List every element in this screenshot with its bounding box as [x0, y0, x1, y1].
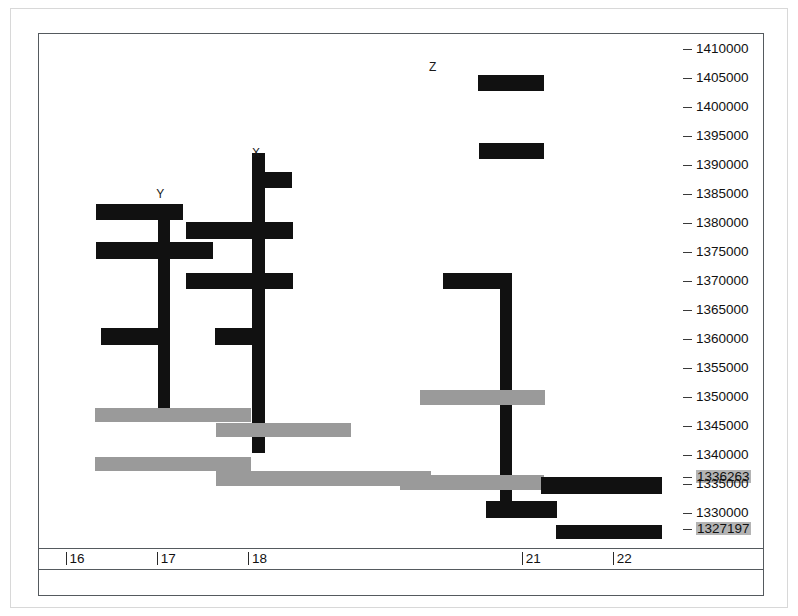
y-axis-label-highlighted: 1327197: [696, 522, 751, 535]
y-axis-label: 1365000: [696, 303, 749, 316]
y-axis-label: 1395000: [696, 129, 749, 142]
x-axis-tick: [522, 552, 523, 565]
plot-area: ZXY: [39, 34, 683, 539]
y-axis-tick: [683, 455, 692, 456]
feature-bar: [216, 423, 351, 438]
track-label-y: Y: [156, 188, 164, 200]
y-axis-tick: [683, 136, 692, 137]
y-axis-label: 1340000: [696, 448, 749, 461]
x-axis-tick: [248, 552, 249, 565]
x-axis-label: 18: [252, 552, 267, 566]
y-axis-tick: [683, 477, 692, 478]
y-axis-tick: [683, 484, 692, 485]
track-label-x: X: [252, 147, 260, 159]
y-axis-label: 1330000: [696, 506, 749, 519]
feature-bar: [259, 172, 292, 188]
y-axis-tick: [683, 107, 692, 108]
y-axis-tick: [683, 194, 692, 195]
y-axis-label: 1375000: [696, 245, 749, 258]
y-axis-tick: [683, 252, 692, 253]
x-axis-label: 17: [161, 552, 176, 566]
y-axis-tick: [683, 368, 692, 369]
feature-bar: [186, 273, 294, 290]
track-label-z: Z: [429, 61, 436, 73]
feature-bar: [486, 501, 557, 518]
y-axis-label: 1370000: [696, 274, 749, 287]
feature-bar: [252, 153, 265, 453]
x-axis-tick: [613, 552, 614, 565]
feature-bar: [400, 475, 544, 490]
feature-bar: [479, 143, 545, 159]
x-axis-label: 16: [70, 552, 85, 566]
feature-bar: [96, 242, 214, 259]
y-axis-label: 1360000: [696, 332, 749, 345]
y-axis-tick: [683, 223, 692, 224]
feature-bar: [215, 328, 265, 345]
feature-bar: [420, 390, 545, 405]
y-axis-label: 1390000: [696, 158, 749, 171]
y-axis-tick: [683, 310, 692, 311]
feature-bar: [541, 477, 662, 494]
y-axis-label: 1405000: [696, 71, 749, 84]
y-axis-tick: [683, 513, 692, 514]
y-axis-label: 1410000: [696, 42, 749, 55]
y-axis-tick: [683, 339, 692, 340]
y-axis-label: 1355000: [696, 361, 749, 374]
y-axis-tick: [683, 49, 692, 50]
y-axis: 1410000140500014000001395000139000013850…: [683, 34, 764, 539]
x-axis: 1617182122: [38, 548, 764, 596]
x-axis-tick: [157, 552, 158, 565]
y-axis-label: 1380000: [696, 216, 749, 229]
y-axis-tick: [683, 529, 692, 530]
y-axis-label: 1335000: [696, 477, 749, 490]
y-axis-label: 1385000: [696, 187, 749, 200]
x-axis-label: 21: [526, 552, 541, 566]
y-axis-tick: [683, 397, 692, 398]
y-axis-tick: [683, 78, 692, 79]
feature-bar: [556, 525, 662, 539]
x-axis-label: 22: [617, 552, 632, 566]
x-axis-tick: [66, 552, 67, 565]
feature-bar: [101, 328, 169, 345]
y-axis-label: 1400000: [696, 100, 749, 113]
feature-bar: [216, 471, 431, 486]
y-axis-tick: [683, 426, 692, 427]
feature-bar: [186, 222, 293, 239]
y-axis-tick: [683, 281, 692, 282]
feature-bar: [95, 408, 251, 423]
feature-bar: [478, 75, 545, 91]
feature-bar: [95, 457, 251, 472]
y-axis-label: 1350000: [696, 390, 749, 403]
y-axis-label: 1345000: [696, 419, 749, 432]
y-axis-tick: [683, 165, 692, 166]
